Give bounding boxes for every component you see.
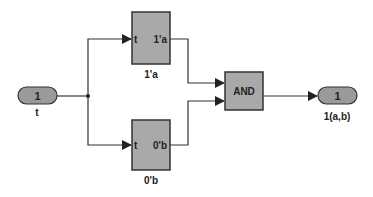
- branch-point: [86, 94, 90, 98]
- outport-number: 1: [334, 90, 340, 102]
- block-b[interactable]: t 0'b: [132, 120, 170, 170]
- block-b-caption: 0'b: [144, 175, 158, 186]
- inport-label: t: [35, 107, 39, 118]
- block-diagram: 1 t t 1'a 1'a t 0'b 0'b AND 1 1(a,b): [0, 0, 373, 197]
- wire-block-a-to-and: [170, 39, 224, 83]
- outport-block[interactable]: 1: [318, 87, 357, 104]
- outport-label: 1(a,b): [324, 111, 351, 122]
- block-a-caption: 1'a: [144, 69, 158, 80]
- block-a[interactable]: t 1'a: [132, 12, 170, 64]
- block-b-output-port: 0'b: [153, 140, 167, 151]
- inport-block[interactable]: 1: [18, 87, 57, 104]
- wires: [57, 39, 317, 145]
- wire-branch-to-block-b: [88, 96, 131, 145]
- and-label: AND: [233, 86, 255, 97]
- wire-branch-to-block-a: [88, 39, 131, 96]
- and-block[interactable]: AND: [225, 72, 263, 110]
- block-a-output-port: 1'a: [153, 34, 167, 45]
- wire-block-b-to-and: [170, 101, 224, 145]
- inport-number: 1: [34, 90, 40, 102]
